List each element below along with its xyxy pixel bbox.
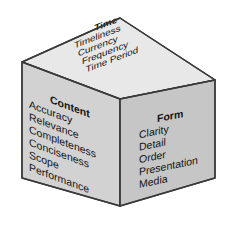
- cube-diagram: Time Timeliness Currency Frequency Time …: [0, 0, 234, 227]
- cube-face-form: [120, 80, 215, 206]
- information-quality-cube: Time Timeliness Currency Frequency Time …: [0, 0, 234, 227]
